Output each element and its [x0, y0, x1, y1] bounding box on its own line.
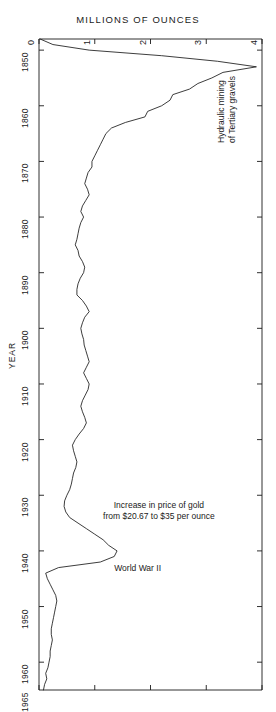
year-axis-tick-label: 1950	[20, 609, 30, 629]
gold-price-annotation-line-1: Increase in price of gold	[103, 500, 215, 511]
value-axis-tick-label: 3	[193, 40, 203, 45]
year-axis-tick-label: 1940	[20, 553, 30, 573]
value-axis-tick-label: 0	[26, 40, 36, 45]
year-axis-tick-label: 1860	[20, 108, 30, 128]
year-axis-tick-label: 1920	[20, 442, 30, 462]
year-axis-tick-label: 1850	[20, 52, 30, 72]
year-axis-tick-label: 1910	[20, 386, 30, 406]
hydraulic-mining-annotation: Hydraulic mining of Tertiary gravels	[216, 77, 237, 144]
year-axis-tick-label: 1880	[20, 219, 30, 239]
year-axis-tick-label: 1930	[20, 498, 30, 518]
world-war-two-annotation-line-1: World War II	[114, 563, 161, 574]
world-war-two-annotation: World War II	[114, 563, 161, 574]
year-axis-tick-label: 1965	[20, 692, 30, 712]
value-axis-tick-label: 1	[82, 40, 92, 45]
hydraulic-mining-annotation-line-2: of Tertiary gravels	[226, 77, 237, 144]
value-axis-tick-label: 4	[249, 40, 259, 45]
hydraulic-mining-annotation-line-1: Hydraulic mining	[216, 77, 227, 144]
year-axis-tick-label: 1960	[20, 664, 30, 684]
year-axis-tick-label: 1870	[20, 164, 30, 184]
year-axis-tick-label: 1890	[20, 275, 30, 295]
value-axis-tick-label: 2	[138, 40, 148, 45]
year-axis-label: YEAR	[7, 342, 17, 369]
year-axis-tick-label: 1900	[20, 331, 30, 351]
gold-price-annotation-line-2: from $20.67 to $35 per ounce	[103, 511, 215, 522]
gold-price-annotation: Increase in price of gold from $20.67 to…	[103, 500, 215, 522]
